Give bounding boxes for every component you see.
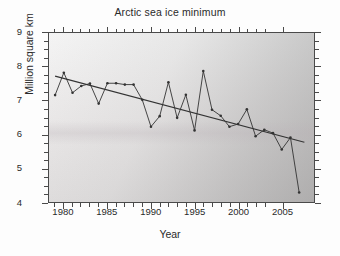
data-point (89, 82, 92, 85)
y-minor-tick (315, 126, 319, 127)
data-point (289, 136, 292, 139)
data-point (132, 83, 135, 86)
x-minor-tick (203, 203, 204, 207)
y-minor-tick (315, 194, 319, 195)
x-tick-mark (195, 27, 196, 33)
data-point (280, 148, 283, 151)
x-minor-tick (212, 203, 213, 207)
y-minor-tick (44, 41, 48, 42)
x-minor-tick (168, 29, 169, 33)
y-minor-tick (315, 83, 319, 84)
y-minor-tick (44, 152, 48, 153)
x-minor-tick (221, 29, 222, 33)
data-point (106, 82, 109, 85)
x-minor-tick (54, 29, 55, 33)
y-minor-tick (315, 92, 319, 93)
x-minor-tick (54, 203, 55, 207)
chart-figure: Arctic sea ice minimum 456789 1980198519… (0, 0, 340, 256)
y-minor-tick (44, 92, 48, 93)
x-minor-tick (133, 203, 134, 207)
data-point (97, 102, 100, 105)
x-minor-tick (98, 29, 99, 33)
x-tick-mark (239, 27, 240, 33)
x-minor-tick (124, 29, 125, 33)
y-minor-tick (315, 49, 319, 50)
data-point (167, 81, 170, 84)
x-minor-tick (116, 29, 117, 33)
x-tick-mark (63, 203, 64, 209)
x-minor-tick (80, 29, 81, 33)
y-minor-tick (44, 186, 48, 187)
y-tick-mark (315, 169, 321, 170)
x-minor-tick (186, 29, 187, 33)
data-point (254, 135, 257, 138)
y-minor-tick (44, 49, 48, 50)
y-tick-mark (315, 66, 321, 67)
data-point (263, 128, 266, 131)
y-tick-mark (315, 32, 321, 33)
y-minor-tick (44, 83, 48, 84)
data-point (141, 99, 144, 102)
x-minor-tick (142, 29, 143, 33)
y-tick-label: 4 (0, 197, 22, 208)
y-tick-mark (42, 169, 48, 170)
data-series-line (49, 33, 314, 203)
y-minor-tick (315, 177, 319, 178)
y-tick-mark (315, 203, 321, 204)
data-point (185, 93, 188, 96)
x-tick-mark (151, 27, 152, 33)
x-minor-tick (72, 29, 73, 33)
x-tick-mark (195, 203, 196, 209)
data-point (272, 132, 275, 135)
x-minor-tick (177, 29, 178, 33)
data-point (211, 108, 214, 111)
y-minor-tick (315, 143, 319, 144)
data-point (150, 125, 153, 128)
x-tick-mark (63, 27, 64, 33)
x-minor-tick (89, 203, 90, 207)
x-minor-tick (98, 203, 99, 207)
y-minor-tick (44, 118, 48, 119)
y-tick-label: 8 (0, 60, 22, 71)
x-minor-tick (72, 203, 73, 207)
y-minor-tick (315, 160, 319, 161)
x-minor-tick (177, 203, 178, 207)
chart-title: Arctic sea ice minimum (0, 6, 340, 18)
y-tick-mark (42, 66, 48, 67)
y-tick-label: 5 (0, 162, 22, 173)
y-minor-tick (44, 58, 48, 59)
data-point (124, 83, 127, 86)
x-minor-tick (256, 203, 257, 207)
y-tick-label: 6 (0, 128, 22, 139)
x-minor-tick (80, 203, 81, 207)
x-tick-mark (151, 203, 152, 209)
y-tick-label: 7 (0, 94, 22, 105)
x-minor-tick (230, 203, 231, 207)
x-minor-tick (168, 203, 169, 207)
y-minor-tick (44, 177, 48, 178)
x-tick-mark (107, 27, 108, 33)
data-point (80, 85, 83, 88)
y-tick-mark (315, 135, 321, 136)
y-minor-tick (44, 160, 48, 161)
y-minor-tick (315, 186, 319, 187)
x-tick-mark (283, 27, 284, 33)
x-minor-tick (186, 203, 187, 207)
y-minor-tick (315, 58, 319, 59)
x-minor-tick (203, 29, 204, 33)
y-minor-tick (315, 41, 319, 42)
y-tick-mark (42, 32, 48, 33)
x-minor-tick (212, 29, 213, 33)
y-minor-tick (44, 143, 48, 144)
x-axis-label: Year (0, 228, 340, 240)
x-minor-tick (89, 29, 90, 33)
plot-area (48, 32, 315, 203)
x-minor-tick (247, 29, 248, 33)
x-minor-tick (160, 29, 161, 33)
data-point (246, 108, 249, 111)
x-tick-mark (107, 203, 108, 209)
data-point (115, 82, 118, 85)
data-point (193, 129, 196, 132)
x-minor-tick (221, 203, 222, 207)
data-point (71, 91, 74, 94)
